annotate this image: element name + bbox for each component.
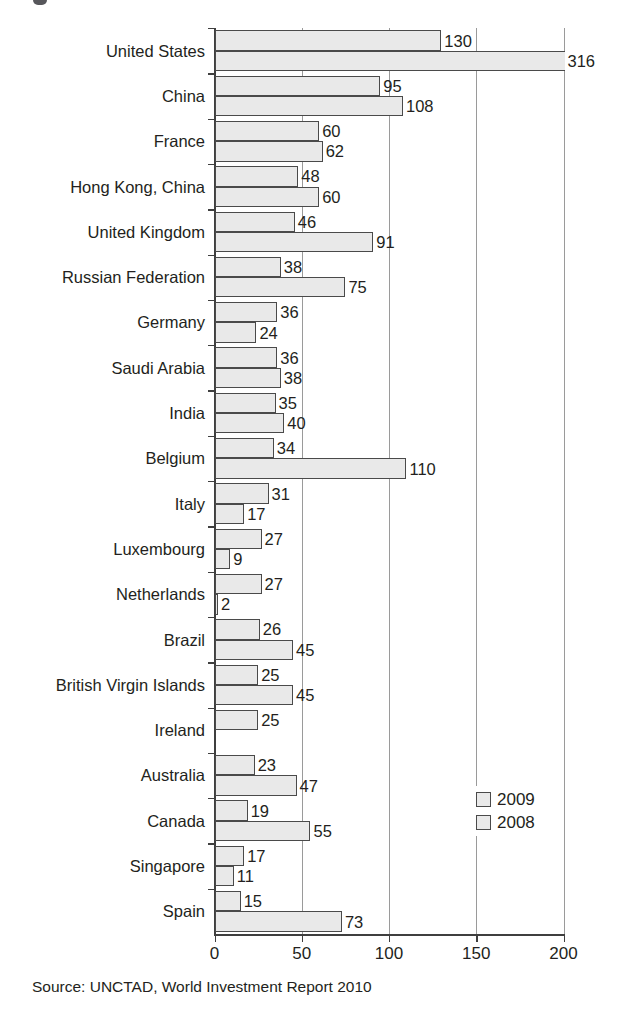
bar-2009-6	[215, 302, 278, 322]
bar-2009-3	[215, 166, 299, 186]
category-label-15: Ireland	[0, 721, 205, 740]
category-label-1: China	[0, 87, 205, 106]
bar-2008-12	[215, 594, 218, 614]
bar-2008-6-value-label: 24	[259, 325, 277, 342]
bar-2009-12-value-label: 27	[265, 576, 283, 593]
bar-2008-14	[215, 685, 294, 705]
legend-swatch-2009	[476, 792, 491, 807]
x-axis-line	[214, 934, 565, 936]
bar-2009-10	[215, 483, 269, 503]
bar-2009-3-value-label: 48	[301, 168, 319, 185]
y-axis-line	[214, 28, 216, 935]
bar-2009-16	[215, 755, 255, 775]
bar-2009-17-value-label: 19	[251, 803, 269, 820]
bar-2008-4	[215, 232, 374, 252]
legend-item-2008: 2008	[476, 811, 564, 834]
bar-2009-16-value-label: 23	[258, 757, 276, 774]
x-tick-label-100: 100	[375, 944, 403, 964]
bar-2008-14-value-label: 45	[296, 687, 314, 704]
category-label-13: Brazil	[0, 631, 205, 650]
category-label-8: India	[0, 404, 205, 423]
bar-2009-15	[215, 710, 259, 730]
bar-2008-12-value-label: 2	[221, 596, 230, 613]
bar-2008-19-value-label: 73	[345, 914, 363, 931]
bar-2008-10-value-label: 17	[247, 506, 265, 523]
bar-2008-16	[215, 775, 297, 795]
bar-2008-0	[215, 51, 565, 71]
chart-legend: 2009 2008	[472, 786, 564, 836]
bar-2009-11	[215, 529, 262, 549]
bar-2008-2	[215, 141, 323, 161]
bar-2009-5-value-label: 38	[284, 259, 302, 276]
bar-2009-8-value-label: 35	[279, 395, 297, 412]
x-tick-label-200: 200	[549, 944, 577, 964]
category-label-17: Canada	[0, 812, 205, 831]
bar-2009-10-value-label: 31	[272, 486, 290, 503]
bar-2008-8	[215, 413, 285, 433]
bar-2009-14-value-label: 25	[261, 667, 279, 684]
bar-2009-7	[215, 347, 278, 367]
bar-2008-16-value-label: 47	[300, 778, 318, 795]
x-tick-100	[389, 935, 390, 942]
x-tick-150	[476, 935, 477, 942]
bar-2008-5-value-label: 75	[348, 279, 366, 296]
category-label-10: Italy	[0, 495, 205, 514]
category-label-6: Germany	[0, 313, 205, 332]
category-label-2: France	[0, 132, 205, 151]
bar-2008-17-value-label: 55	[313, 823, 331, 840]
legend-label-2008: 2008	[497, 814, 535, 831]
bar-2008-2-value-label: 62	[326, 143, 344, 160]
bar-2009-8	[215, 393, 276, 413]
bar-2008-4-value-label: 91	[376, 234, 394, 251]
bar-2009-19	[215, 891, 241, 911]
bar-2008-3-value-label: 60	[322, 189, 340, 206]
bar-2008-17	[215, 821, 311, 841]
category-label-19: Spain	[0, 902, 205, 921]
category-label-9: Belgium	[0, 449, 205, 468]
bar-2009-2	[215, 121, 320, 141]
bar-2009-4-value-label: 46	[298, 214, 316, 231]
category-label-16: Australia	[0, 766, 205, 785]
bar-2009-11-value-label: 27	[265, 531, 283, 548]
bar-2008-11	[215, 549, 231, 569]
bar-2009-6-value-label: 36	[280, 304, 298, 321]
bar-2008-10	[215, 504, 245, 524]
bar-2009-18-value-label: 17	[247, 848, 265, 865]
bar-2009-14	[215, 665, 259, 685]
bar-2009-0-value-label: 130	[444, 33, 472, 50]
category-label-4: United Kingdom	[0, 223, 205, 242]
bar-2009-17	[215, 800, 248, 820]
x-tick-50	[302, 935, 303, 942]
bar-2009-12	[215, 574, 262, 594]
bar-2009-2-value-label: 60	[322, 123, 340, 140]
bar-2009-7-value-label: 36	[280, 350, 298, 367]
legend-item-2009: 2009	[476, 788, 564, 811]
bar-2009-1-value-label: 95	[383, 78, 401, 95]
category-label-11: Luxembourg	[0, 540, 205, 559]
bar-2009-0	[215, 30, 442, 50]
bar-2008-13	[215, 640, 294, 660]
category-label-12: Netherlands	[0, 585, 205, 604]
category-label-0: United States	[0, 42, 205, 61]
bar-2008-18-value-label: 11	[237, 868, 254, 885]
bar-2008-1-value-label: 108	[406, 98, 434, 115]
bar-2009-4	[215, 212, 295, 232]
gridline-50	[302, 28, 303, 935]
category-label-5: Russian Federation	[0, 268, 205, 287]
bar-2008-3	[215, 187, 320, 207]
x-tick-200	[564, 935, 565, 942]
bar-2009-1	[215, 76, 381, 96]
bar-2008-5	[215, 277, 346, 297]
category-label-18: Singapore	[0, 857, 205, 876]
bar-2009-13-value-label: 26	[263, 621, 281, 638]
legend-label-2009: 2009	[497, 791, 535, 808]
bar-2008-9	[215, 458, 407, 478]
category-label-14: British Virgin Islands	[0, 676, 205, 695]
category-label-7: Saudi Arabia	[0, 359, 205, 378]
bar-2008-0-value-label: 316	[568, 53, 596, 70]
gridline-100	[389, 28, 390, 935]
bar-chart-figure: 1303169510860624860469138753624363835403…	[0, 0, 618, 1014]
bar-2008-7-value-label: 38	[284, 370, 302, 387]
bar-2008-8-value-label: 40	[287, 415, 305, 432]
bar-2009-13	[215, 619, 260, 639]
